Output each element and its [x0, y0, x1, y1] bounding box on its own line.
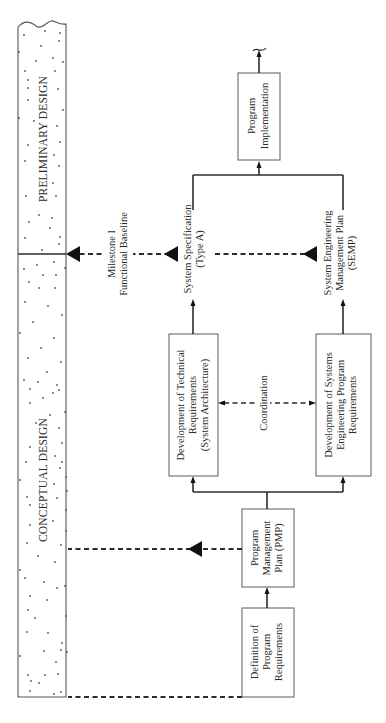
arrowhead-icon	[341, 476, 346, 483]
phase-label-conceptual: CONCEPTUAL DESIGN	[37, 417, 49, 542]
svg-text:Program: Program	[261, 634, 272, 670]
arrowhead-icon	[309, 401, 316, 406]
phase-label-preliminary: PRELIMINARY DESIGN	[37, 75, 49, 202]
arrowhead-icon	[164, 246, 178, 262]
box-definition-of-program-requirements: Definition of Program Requirements	[242, 608, 294, 697]
svg-text:Management: Management	[261, 521, 272, 576]
svg-text:Implementation: Implementation	[259, 82, 270, 149]
milestone-arrowhead-icon	[66, 246, 80, 262]
svg-text:Requirements: Requirements	[187, 376, 198, 434]
svg-text:(System Architecture): (System Architecture)	[199, 358, 211, 451]
box-technical-requirements: Development of Technical Requirements (S…	[169, 334, 218, 476]
box-program-implementation: Program Implementation	[238, 73, 280, 160]
output-semp: System Engineering Management Plan (SEMP…	[322, 210, 358, 296]
svg-text:(SEMP): (SEMP)	[346, 235, 358, 270]
arrowhead-icon	[341, 299, 346, 306]
svg-text:System Engineering: System Engineering	[322, 210, 333, 296]
svg-text:(Type A): (Type A)	[194, 230, 206, 268]
continuation-tilde-icon	[253, 48, 266, 51]
svg-text:Plan (PMP): Plan (PMP)	[273, 523, 285, 573]
arrowhead-icon	[303, 246, 317, 262]
phase-band: PRELIMINARY DESIGN CONCEPTUAL DESIGN	[18, 21, 68, 697]
arrowhead-icon	[265, 587, 270, 594]
output-system-specification: System Specification (Type A)	[182, 204, 206, 294]
arrowhead-icon	[257, 50, 262, 57]
coordination-label: Coordination	[258, 375, 269, 431]
milestone-label: Milestone I	[106, 229, 117, 278]
arrowhead-icon	[191, 299, 196, 306]
coordination-link: Coordination	[218, 355, 316, 451]
box-se-program-requirements: Development of Systems Engineering Progr…	[316, 334, 371, 476]
svg-text:System Specification: System Specification	[182, 204, 193, 294]
arrowhead-icon	[191, 476, 196, 483]
svg-text:Program: Program	[249, 530, 260, 566]
arrowhead-icon	[257, 161, 262, 168]
svg-text:Requirements: Requirements	[273, 623, 284, 681]
milestone-sublabel: Functional Baseline	[118, 212, 129, 296]
box-program-management-plan: Program Management Plan (PMP)	[242, 509, 294, 587]
svg-text:Program: Program	[246, 98, 257, 134]
svg-text:Management Plan: Management Plan	[334, 214, 345, 291]
arrowhead-icon	[218, 401, 225, 406]
svg-text:Engineering Program: Engineering Program	[335, 360, 346, 450]
svg-text:Requirements: Requirements	[347, 376, 358, 434]
svg-text:Development of Technical: Development of Technical	[175, 349, 186, 460]
svg-text:Definition of: Definition of	[249, 624, 260, 679]
milestone-arrowhead-icon	[188, 541, 202, 557]
svg-text:Development of Systems: Development of Systems	[323, 352, 334, 458]
systems-engineering-process-diagram: PRELIMINARY DESIGN CONCEPTUAL DESIGN Def…	[0, 0, 386, 723]
